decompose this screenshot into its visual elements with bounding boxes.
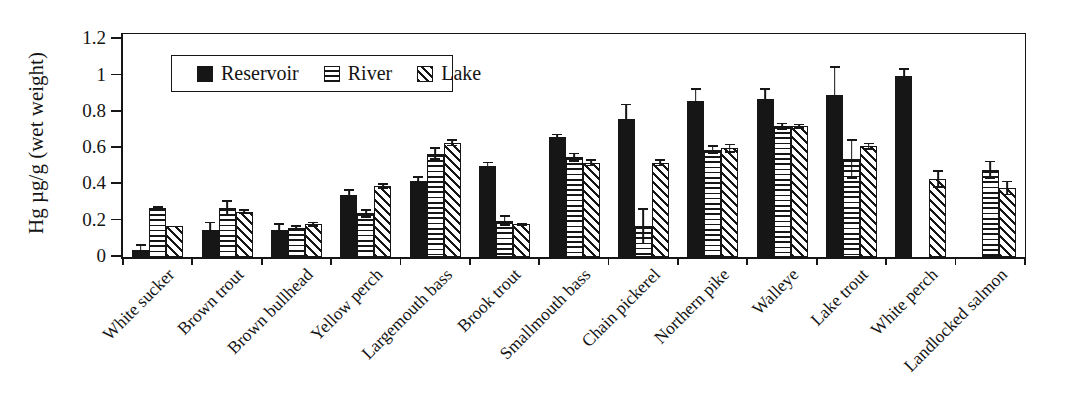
bar-lake-brown-trout: [236, 212, 253, 257]
bar-lake-chain-pickerel: [652, 163, 669, 257]
bar-river-yellow-perch: [357, 213, 374, 257]
errorbar-part: [136, 253, 146, 255]
errorbar-part: [621, 104, 631, 106]
y-tick-label-0: 0: [42, 245, 106, 267]
errorbar-part: [361, 209, 371, 211]
errorbar-lake-yellow-perch: [374, 183, 391, 188]
reservoir-swatch-icon: [197, 66, 213, 82]
x-tick-9: [746, 259, 748, 265]
legend: Reservoir River Lake: [171, 55, 453, 92]
errorbar-river-walleye: [774, 123, 791, 130]
errorbar-part: [725, 151, 735, 153]
errorbar-part: [500, 224, 510, 226]
lake-swatch-icon: [417, 66, 433, 82]
x-tick-1: [191, 259, 193, 265]
errorbar-reservoir-brook-trout: [479, 162, 496, 171]
errorbar-part: [239, 213, 249, 215]
errorbar-lake-smallmouth-bass: [583, 159, 600, 166]
errorbar-part: [864, 148, 874, 150]
errorbar-part: [691, 112, 701, 114]
errorbar-part: [569, 153, 579, 155]
bar-lake-white-perch: [929, 179, 946, 257]
errorbar-part: [361, 216, 371, 218]
errorbar-river-chain-pickerel: [635, 208, 652, 244]
legend-label-river: River: [348, 62, 392, 85]
errorbar-part: [760, 88, 770, 90]
errorbar-part: [308, 225, 318, 227]
plot-area: Reservoir River Lake: [121, 33, 1026, 259]
x-tick-4: [400, 259, 402, 265]
errorbar-part: [222, 200, 232, 202]
errorbar-part: [899, 68, 909, 70]
errorbar-part: [344, 200, 354, 202]
errorbar-part: [937, 170, 939, 188]
errorbar-part: [777, 128, 787, 130]
errorbar-part: [933, 186, 943, 188]
errorbar-river-smallmouth-bass: [566, 153, 583, 162]
errorbar-part: [985, 161, 995, 163]
errorbar-lake-white-perch: [929, 170, 946, 188]
bar-river-brook-trout: [496, 221, 513, 257]
legend-item-river: River: [324, 62, 392, 85]
errorbar-part: [638, 208, 648, 210]
bar-lake-brown-bullhead: [305, 224, 322, 257]
errorbar-river-largemouth-bass: [427, 147, 444, 160]
x-tick-11: [885, 259, 887, 265]
y-tick-label-1: 1: [42, 64, 106, 86]
bar-river-landlocked-salmon: [982, 170, 999, 257]
errorbar-reservoir-chain-pickerel: [618, 104, 635, 135]
errorbar-part: [626, 104, 628, 135]
mercury-fish-bar-chart: Hg µg/g (wet weight) Reservoir River Lak…: [0, 0, 1065, 413]
y-tick-0.2: [111, 219, 121, 221]
errorbar-river-northern-pike: [704, 145, 721, 154]
errorbar-part: [794, 124, 804, 126]
errorbar-lake-brown-trout: [236, 209, 253, 214]
bar-river-walleye: [774, 126, 791, 257]
errorbar-part: [655, 165, 665, 167]
errorbar-part: [552, 139, 562, 141]
legend-item-lake: Lake: [417, 62, 481, 85]
errorbar-river-brown-bullhead: [288, 225, 305, 230]
bar-river-brown-bullhead: [288, 228, 305, 257]
bar-reservoir-chain-pickerel: [618, 119, 635, 257]
errorbar-part: [430, 158, 440, 160]
x-label-white-sucker: White sucker: [99, 265, 178, 344]
bar-river-largemouth-bass: [427, 154, 444, 257]
y-tick-1.2: [111, 37, 121, 39]
x-label-brown-trout: Brown trout: [174, 265, 248, 339]
errorbar-part: [517, 224, 527, 226]
bar-lake-smallmouth-bass: [583, 163, 600, 257]
errorbar-part: [708, 145, 718, 147]
errorbar-part: [483, 162, 493, 164]
errorbar-part: [447, 139, 457, 141]
errorbar-part: [136, 244, 146, 246]
errorbar-part: [344, 189, 354, 191]
bar-lake-brook-trout: [513, 224, 530, 257]
x-label-brook-trout: Brook trout: [454, 265, 525, 336]
errorbar-part: [222, 214, 232, 216]
errorbar-part: [430, 147, 440, 149]
bar-reservoir-smallmouth-bass: [549, 137, 566, 257]
y-tick-label-0.8: 0.8: [42, 100, 106, 122]
errorbar-part: [985, 177, 995, 179]
x-label-white-perch: White perch: [867, 265, 941, 339]
bar-reservoir-walleye: [757, 99, 774, 257]
errorbar-part: [847, 139, 857, 141]
x-tick-7: [608, 259, 610, 265]
y-tick-0.6: [111, 146, 121, 148]
x-label-lake-trout: Lake trout: [807, 265, 872, 330]
errorbar-river-brown-trout: [219, 200, 236, 216]
errorbar-part: [989, 161, 991, 179]
errorbar-part: [725, 144, 735, 146]
y-tick-0: [111, 255, 121, 257]
bar-lake-northern-pike: [721, 148, 738, 257]
x-tick-8: [677, 259, 679, 265]
errorbar-reservoir-white-perch: [895, 68, 912, 83]
errorbar-river-brook-trout: [496, 215, 513, 226]
errorbar-part: [586, 159, 596, 161]
errorbar-lake-lake-trout: [860, 143, 877, 150]
errorbar-lake-walleye: [791, 124, 808, 129]
legend-item-reservoir: Reservoir: [197, 62, 299, 85]
errorbar-part: [500, 215, 510, 217]
errorbar-part: [655, 159, 665, 161]
